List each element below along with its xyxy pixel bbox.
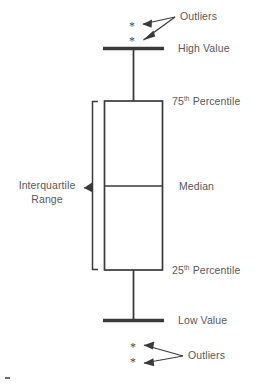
interquartile-bracket	[93, 102, 99, 270]
outlier-bottom-arrowhead-1-icon	[144, 342, 155, 350]
label-25th-percentile: 25th Percentile	[172, 264, 240, 277]
label-25th-ordinal: th	[184, 264, 190, 271]
label-25th-word: Percentile	[193, 264, 241, 276]
label-75th-percentile: 75th Percentile	[172, 95, 240, 108]
outlier-star-top-1: *	[129, 20, 135, 32]
label-75th-word: Percentile	[193, 95, 241, 107]
label-outliers-bottom: Outliers	[188, 349, 225, 362]
interquartile-arrowhead-icon	[84, 182, 93, 193]
outlier-top-arrowhead-2-icon	[143, 31, 155, 41]
label-interquartile-range: InterquartileRange	[10, 179, 84, 206]
label-interquartile-line1: Interquartile	[19, 179, 76, 191]
outlier-star-bottom-1: *	[130, 341, 136, 353]
label-median: Median	[179, 180, 214, 193]
label-high-value: High Value	[178, 42, 230, 55]
label-outliers-top: Outliers	[180, 10, 217, 23]
outlier-top-arrowhead-1-icon	[143, 20, 153, 28]
label-interquartile-line2: Range	[31, 193, 62, 205]
outlier-star-top-2: *	[129, 35, 135, 47]
label-25th-number: 25	[172, 264, 184, 276]
label-low-value: Low Value	[178, 314, 227, 327]
box-plot-figure: * * * * Outliers High Value 75th Percent…	[0, 0, 257, 385]
label-75th-ordinal: th	[184, 95, 190, 102]
corner-mark	[5, 377, 10, 379]
label-75th-number: 75	[172, 95, 184, 107]
outlier-star-bottom-2: *	[130, 356, 136, 368]
